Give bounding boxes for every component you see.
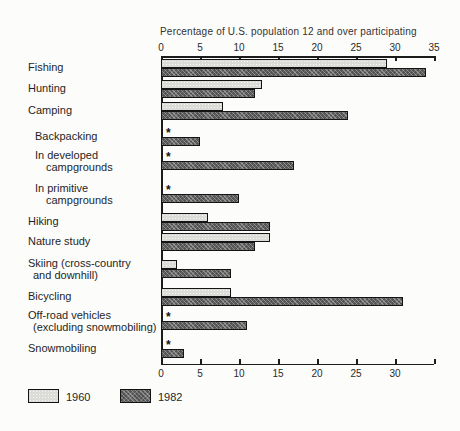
legend-label-1960: 1960	[66, 391, 90, 403]
bar-1982	[161, 194, 239, 203]
top-axis-line	[161, 56, 434, 58]
top-axis-tick-label: 5	[197, 42, 203, 53]
bar-1982	[161, 269, 231, 278]
top-axis-tick-label: 25	[350, 42, 361, 53]
bottom-axis-tick	[161, 359, 163, 364]
bottom-axis-tick-label: 5	[197, 368, 203, 379]
top-axis-tick-label: 10	[233, 42, 244, 53]
bar-chart-figure: Percentage of U.S. population 12 and ove…	[0, 0, 460, 431]
category-label-line1: In primitive	[35, 183, 113, 195]
bottom-axis-tick	[239, 359, 241, 364]
bottom-axis-tick	[317, 359, 319, 364]
category-label: Fishing	[28, 62, 63, 74]
category-label: Backpacking	[35, 131, 97, 143]
bar-1982	[161, 242, 255, 251]
bar-1982	[161, 297, 403, 306]
bar-1982	[161, 349, 184, 358]
bar-1960	[161, 260, 177, 269]
bar-1982	[161, 137, 200, 146]
top-axis-tick-label: 20	[311, 42, 322, 53]
bar-1982	[161, 222, 270, 231]
category-label-line1: Fishing	[28, 62, 63, 74]
category-label-line2: and downhill)	[28, 269, 131, 281]
bottom-axis-tick	[278, 359, 280, 364]
category-label-line2: campgrounds	[35, 194, 113, 206]
legend-label-1982: 1982	[158, 391, 182, 403]
top-axis-tick	[395, 56, 397, 61]
bar-1982	[161, 68, 426, 77]
category-label: Hunting	[28, 83, 66, 95]
bottom-axis-tick	[200, 359, 202, 364]
category-label-line1: Off-road vehicles	[28, 310, 157, 322]
bottom-axis-line	[161, 364, 434, 366]
category-label-line1: Hiking	[28, 216, 59, 228]
category-label: Hiking	[28, 216, 59, 228]
category-label-line1: Camping	[28, 105, 72, 117]
bottom-axis-tick	[434, 359, 436, 364]
category-label: Camping	[28, 105, 72, 117]
bottom-axis-tick-label: 0	[158, 368, 164, 379]
legend-swatch-1982	[120, 389, 151, 403]
bottom-axis-tick-label: 30	[389, 368, 400, 379]
category-label: Snowmobiling	[28, 343, 96, 355]
category-label: In developedcampgrounds	[35, 150, 113, 173]
bar-1960	[161, 80, 262, 89]
top-axis-tick-label: 15	[272, 42, 283, 53]
bar-1960	[161, 288, 231, 297]
bottom-axis-tick-label: 20	[311, 368, 322, 379]
bottom-axis-tick-label: 10	[233, 368, 244, 379]
bar-1960	[161, 102, 223, 111]
bar-1960	[161, 213, 208, 222]
top-axis-tick-label: 35	[428, 42, 439, 53]
category-label: Off-road vehicles(excluding snowmobiling…	[28, 310, 157, 333]
category-label-line1: Snowmobiling	[28, 343, 96, 355]
top-axis-tick	[434, 56, 436, 61]
bar-1982	[161, 111, 348, 120]
category-label-line1: In developed	[35, 150, 113, 162]
bottom-axis-tick	[356, 359, 358, 364]
category-label-line2: (excluding snowmobiling)	[28, 321, 157, 333]
bottom-axis-tick-label: 15	[272, 368, 283, 379]
category-label: Skiing (cross-countryand downhill)	[28, 258, 131, 281]
top-axis-tick-label: 30	[389, 42, 400, 53]
category-label-line1: Bicycling	[28, 291, 71, 303]
category-label: In primitivecampgrounds	[35, 183, 113, 206]
legend: 1960 1982	[0, 388, 460, 406]
category-label-line2: campgrounds	[35, 161, 113, 173]
category-label-line1: Nature study	[28, 236, 90, 248]
bar-1960	[161, 59, 387, 68]
category-label-line1: Hunting	[28, 83, 66, 95]
top-axis-tick-label: 0	[158, 42, 164, 53]
bar-1982	[161, 161, 294, 170]
bottom-axis-tick	[395, 359, 397, 364]
chart-title: Percentage of U.S. population 12 and ove…	[160, 26, 417, 37]
category-label-line1: Skiing (cross-country	[28, 258, 131, 270]
legend-swatch-1960	[28, 389, 59, 403]
bottom-axis-tick-label: 25	[350, 368, 361, 379]
category-label-line1: Backpacking	[35, 131, 97, 143]
bar-1982	[161, 321, 247, 330]
bar-1982	[161, 89, 255, 98]
category-label: Bicycling	[28, 291, 71, 303]
bar-1960	[161, 233, 270, 242]
category-label: Nature study	[28, 236, 90, 248]
